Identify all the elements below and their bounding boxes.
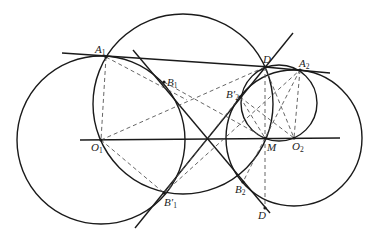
label-O2: O2 [292,140,304,154]
dash-A2-O2 [294,70,300,138]
point-O1 [99,138,102,141]
label-B2prime: B′2 [226,88,239,102]
point-B1prime [162,191,165,194]
label-A2: A2 [298,57,310,71]
tangent-A1-D [62,53,270,67]
point-B2 [241,180,244,183]
point-M [263,136,266,139]
line-center-axis [80,138,340,140]
label-B1: B1 [167,76,178,90]
circle-big-center [93,14,273,194]
dash-A1-O1 [101,57,106,140]
label-D-top: D [262,53,271,65]
label-A1: A1 [94,43,106,57]
dash-O1-B1prime [101,140,164,193]
label-O1: O1 [91,141,103,155]
dash-A1-B1 [106,57,187,100]
point-B1 [162,80,165,83]
label-D-bottom: D [257,209,266,221]
label-M: M [266,141,277,153]
dash-M-B2 [243,138,265,182]
point-D-top [263,65,266,68]
circle-small-right [241,65,317,141]
label-B1prime: B′1 [164,196,177,210]
geometry-diagram: A1 B1 D A2 B′2 O1 M O2 B′1 B2 D [0,0,374,241]
